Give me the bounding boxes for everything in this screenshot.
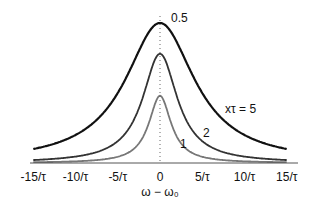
x-tick-label: 10/τ [234, 170, 256, 184]
x-axis-label: ω − ω₀ [141, 185, 178, 199]
curve-5-label: xτ = 5 [225, 102, 256, 116]
curve-2-label: 2 [203, 126, 210, 140]
x-tick-label: -5/τ [108, 170, 127, 184]
x-tick-label: -10/τ [63, 170, 89, 184]
chart: -15/τ-10/τ-5/τ05/τ10/τ15/τ 0.5 xτ = 5 2 … [0, 0, 312, 207]
x-ticks: -15/τ-10/τ-5/τ05/τ10/τ15/τ [21, 170, 298, 184]
curve-x5-line [33, 23, 286, 149]
x-tick-label: 15/τ [276, 170, 298, 184]
x-tick-label: 0 [157, 170, 164, 184]
curve-1-label: 1 [180, 137, 187, 151]
peak-label: 0.5 [171, 11, 188, 25]
x-tick-label: 5/τ [195, 170, 210, 184]
x-tick-label: -15/τ [21, 170, 47, 184]
